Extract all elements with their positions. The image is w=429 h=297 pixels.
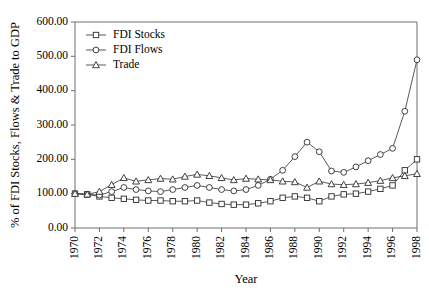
data-point-marker	[194, 171, 201, 177]
x-tick-label: 1972	[92, 236, 104, 259]
legend-marker-circle	[93, 47, 99, 53]
data-point-marker	[243, 202, 248, 207]
data-point-marker	[268, 199, 273, 204]
x-axis-title: Year	[234, 272, 258, 286]
legend-item-fdi-stocks[interactable]: FDI Stocks	[86, 28, 166, 40]
data-point-marker	[170, 199, 175, 204]
data-point-marker	[256, 201, 261, 206]
legend-item-fdi-flows[interactable]: FDI Flows	[86, 43, 163, 55]
data-point-marker	[121, 196, 126, 201]
x-tick-label: 1998	[410, 236, 422, 259]
data-point-marker	[414, 57, 420, 63]
y-tick-label: 400.00	[36, 83, 68, 95]
x-tick-label: 1996	[385, 236, 397, 259]
y-axis-title-group: % of FDI Stocks, Flows & Trade to GDP	[8, 22, 22, 228]
fdi-trade-line-chart: % of FDI Stocks, Flows & Trade to GDP 0.…	[0, 0, 429, 297]
data-point-marker	[158, 189, 164, 195]
data-point-marker	[353, 164, 359, 170]
data-point-marker	[304, 195, 309, 200]
data-point-marker	[133, 197, 138, 202]
data-point-marker	[121, 185, 127, 191]
data-point-marker	[109, 189, 115, 195]
data-point-marker	[96, 188, 103, 194]
y-tick-label: 100.00	[36, 186, 68, 198]
data-point-marker	[206, 185, 212, 191]
data-point-marker	[329, 194, 334, 199]
data-point-marker	[316, 178, 323, 184]
y-tick-label: 0.00	[48, 221, 68, 233]
data-point-marker	[255, 183, 261, 189]
data-point-marker	[390, 145, 396, 151]
chart-container: % of FDI Stocks, Flows & Trade to GDP 0.…	[0, 0, 429, 297]
x-tick-label: 1978	[165, 236, 177, 259]
data-point-marker	[182, 185, 188, 191]
data-point-marker	[365, 189, 370, 194]
y-axis-title: % of FDI Stocks, Flows & Trade to GDP	[8, 22, 22, 228]
data-point-marker	[377, 152, 383, 158]
data-point-marker	[402, 108, 408, 114]
data-point-marker	[317, 199, 322, 204]
data-point-marker	[120, 174, 127, 180]
data-point-marker	[219, 201, 224, 206]
data-point-marker	[316, 149, 322, 155]
data-point-marker	[280, 167, 286, 173]
data-series-group	[72, 57, 421, 207]
x-tick-label: 1980	[190, 236, 202, 259]
x-tick-label: 1986	[263, 236, 275, 259]
x-axis-ticks: 1970197219741976197819801982198419861988…	[68, 228, 422, 259]
chart-legend: FDI StocksFDI FlowsTrade	[86, 28, 166, 70]
x-tick-label: 1990	[312, 236, 324, 259]
data-point-marker	[280, 195, 285, 200]
x-tick-label: 1992	[336, 236, 348, 259]
data-point-marker	[414, 157, 419, 162]
data-point-marker	[157, 175, 164, 181]
data-point-marker	[414, 170, 421, 176]
x-tick-label: 1988	[287, 236, 299, 259]
legend-label: FDI Stocks	[113, 28, 166, 40]
data-point-marker	[243, 187, 249, 193]
data-point-marker	[219, 187, 225, 193]
y-axis-ticks: 0.00100.00200.00300.00400.00500.00600.00	[36, 15, 75, 233]
y-tick-label: 300.00	[36, 118, 68, 130]
x-tick-label: 1982	[214, 236, 226, 259]
data-point-marker	[353, 191, 358, 196]
data-point-marker	[292, 154, 298, 160]
data-point-marker	[329, 168, 335, 174]
data-point-marker	[109, 195, 114, 200]
y-tick-label: 200.00	[36, 152, 68, 164]
data-point-marker	[108, 181, 115, 187]
legend-item-trade[interactable]: Trade	[86, 58, 139, 70]
data-point-marker	[231, 188, 237, 194]
data-point-marker	[304, 184, 311, 190]
y-tick-label: 500.00	[36, 49, 68, 61]
data-point-marker	[145, 188, 151, 194]
data-point-marker	[292, 194, 297, 199]
x-tick-label: 1984	[239, 236, 251, 259]
data-point-marker	[304, 139, 310, 145]
data-point-marker	[194, 198, 199, 203]
data-point-marker	[158, 198, 163, 203]
data-point-marker	[170, 187, 176, 193]
x-axis-title-group: Year	[234, 272, 258, 286]
data-point-marker	[341, 169, 347, 175]
legend-label: Trade	[113, 58, 139, 70]
data-point-marker	[182, 199, 187, 204]
data-point-marker	[194, 183, 200, 189]
data-point-marker	[378, 186, 383, 191]
data-point-marker	[231, 202, 236, 207]
legend-label: FDI Flows	[113, 43, 163, 55]
data-point-marker	[365, 158, 371, 164]
y-tick-label: 600.00	[36, 15, 68, 27]
x-tick-label: 1974	[116, 236, 128, 259]
x-tick-label: 1976	[141, 236, 153, 259]
legend-marker-square	[93, 32, 98, 37]
data-point-marker	[133, 187, 139, 193]
x-tick-label: 1970	[68, 236, 80, 259]
data-point-marker	[146, 198, 151, 203]
x-tick-label: 1994	[361, 236, 373, 259]
data-point-marker	[207, 200, 212, 205]
data-point-marker	[243, 175, 250, 181]
data-point-marker	[341, 192, 346, 197]
data-point-marker	[390, 183, 395, 188]
